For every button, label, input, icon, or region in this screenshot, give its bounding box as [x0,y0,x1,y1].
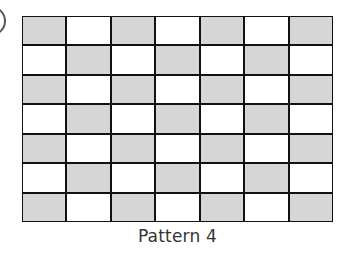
shaded-cell [112,135,154,162]
shaded-cell [245,46,287,73]
shaded-cell [112,17,154,44]
shaded-cell [290,194,332,221]
unshaded-cell [156,194,198,221]
unshaded-cell [112,164,154,191]
shaded-cell [290,76,332,103]
unshaded-cell [67,76,109,103]
shaded-cell [67,164,109,191]
unshaded-cell [23,46,65,73]
unshaded-cell [112,105,154,132]
shaded-cell [23,194,65,221]
shaded-cell [67,46,109,73]
shaded-cell [201,17,243,44]
shaded-cell [245,164,287,191]
unshaded-cell [201,46,243,73]
unshaded-cell [67,17,109,44]
unshaded-cell [201,164,243,191]
shaded-cell [156,164,198,191]
shaded-cell [112,76,154,103]
unshaded-cell [67,194,109,221]
unshaded-cell [245,135,287,162]
shaded-cell [67,105,109,132]
unshaded-cell [201,105,243,132]
shaded-cell [201,135,243,162]
unshaded-cell [290,105,332,132]
unshaded-cell [112,46,154,73]
unshaded-cell [67,135,109,162]
unshaded-cell [156,17,198,44]
unshaded-cell [23,105,65,132]
checkerboard-grid [22,16,333,222]
pattern-caption: Pattern 4 [0,226,341,246]
shaded-cell [156,46,198,73]
unshaded-cell [156,76,198,103]
unshaded-cell [290,46,332,73]
shaded-cell [245,105,287,132]
shaded-cell [23,17,65,44]
shaded-cell [112,194,154,221]
shaded-cell [290,17,332,44]
unshaded-cell [23,164,65,191]
shaded-cell [201,76,243,103]
unshaded-cell [245,76,287,103]
unshaded-cell [290,164,332,191]
unshaded-cell [156,135,198,162]
shaded-cell [156,105,198,132]
unshaded-cell [245,194,287,221]
shaded-cell [290,135,332,162]
shaded-cell [201,194,243,221]
shaded-cell [23,135,65,162]
partial-parenthesis-mark [0,6,6,36]
unshaded-cell [245,17,287,44]
shaded-cell [23,76,65,103]
